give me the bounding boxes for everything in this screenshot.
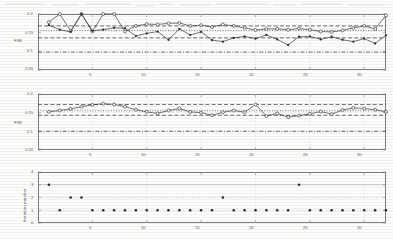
panel-3-xtick-3: 20 [249,225,254,230]
panel-3-xtick-4: 25 [303,225,308,230]
panel-3-xtick-5: 30 [357,225,362,230]
panel-3-xtick-2: 15 [195,225,200,230]
figure-canvas: F/M 0.2 0.15 0.1 0.05 5 10 15 20 25 30 F… [0,0,393,239]
panel-3-xtick-1: 10 [141,225,146,230]
panel-3-xtick-0: 5 [89,225,91,230]
panel-3-svg [0,0,393,239]
